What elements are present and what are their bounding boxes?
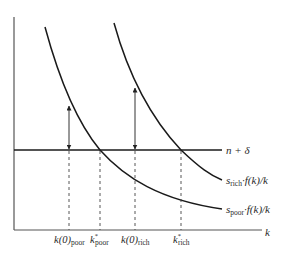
solow-diagram: k n + δ spoor·f(k)/k srich·f(k)/k k(0)po…: [0, 0, 289, 263]
rich-growth-curve: [114, 23, 222, 180]
tick-label-k0-poor: k(0)poor: [54, 234, 85, 247]
tick-label-kstar-rich: k*rich: [173, 232, 190, 247]
tick-label-k0-rich: k(0)rich: [121, 234, 150, 247]
poor-curve-label: spoor·f(k)/k: [226, 203, 271, 217]
depreciation-line-label: n + δ: [226, 144, 250, 156]
rich-curve-label: srich·f(k)/k: [226, 174, 269, 188]
tick-label-kstar-poor: k*poor: [90, 232, 109, 247]
x-axis-label: k: [265, 226, 271, 238]
poor-growth-curve: [45, 27, 222, 209]
